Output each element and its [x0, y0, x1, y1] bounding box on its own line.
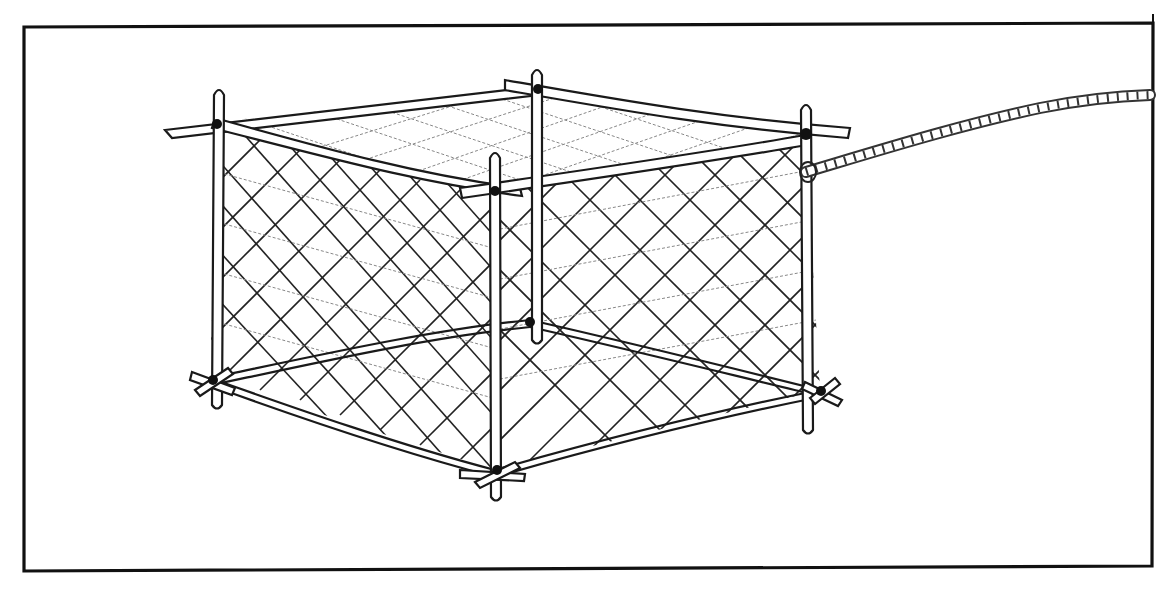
left-post [212, 90, 224, 409]
corner-posts [212, 70, 813, 501]
sketch-illustration [0, 0, 1173, 589]
rope [800, 95, 1150, 182]
bottom-crosspieces [190, 368, 842, 488]
back-post [532, 70, 542, 344]
center-post [490, 153, 501, 501]
top-frame-sticks [165, 80, 850, 198]
